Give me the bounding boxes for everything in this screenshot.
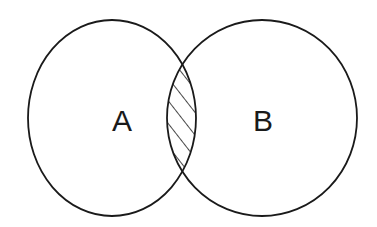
set-a-label: A: [112, 104, 132, 137]
venn-diagram: A B: [0, 0, 377, 227]
set-b-label: B: [253, 104, 273, 137]
